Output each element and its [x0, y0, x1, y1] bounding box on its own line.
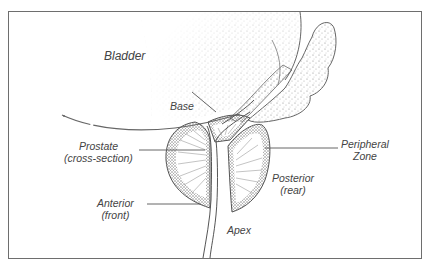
prostate-cross-section	[166, 115, 270, 212]
label-prostate-line2: (cross-section)	[64, 152, 133, 164]
label-anterior-line2: (front)	[97, 209, 134, 221]
prostate-illustration	[0, 0, 433, 269]
label-prostate-line1: Prostate	[64, 140, 133, 152]
label-peripheral-line2: Zone	[341, 150, 389, 162]
label-bladder: Bladder	[104, 50, 145, 62]
label-peripheral-zone: Peripheral Zone	[341, 138, 389, 162]
label-posterior-line2: (rear)	[272, 184, 314, 196]
label-posterior: Posterior (rear)	[272, 172, 314, 196]
label-anterior-line1: Anterior	[97, 197, 134, 209]
label-peripheral-line1: Peripheral	[341, 138, 389, 150]
label-posterior-line1: Posterior	[272, 172, 314, 184]
label-apex: Apex	[227, 224, 251, 236]
label-anterior: Anterior (front)	[97, 197, 134, 221]
label-base: Base	[170, 100, 194, 112]
label-prostate: Prostate (cross-section)	[64, 140, 133, 164]
